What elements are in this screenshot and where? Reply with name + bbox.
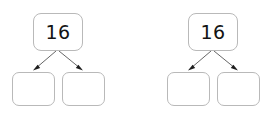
whole-value: 16 — [200, 23, 225, 42]
arrow-to-left-part — [188, 51, 211, 71]
worksheet-canvas: 16 16 — [0, 0, 273, 117]
arrow-to-right-part — [59, 51, 83, 71]
part-box-left[interactable] — [12, 72, 55, 106]
part-box-left[interactable] — [167, 72, 210, 106]
whole-value: 16 — [45, 23, 70, 42]
number-bond-diagram-left: 16 — [12, 0, 122, 117]
arrow-to-right-part — [214, 51, 238, 71]
whole-box[interactable]: 16 — [188, 13, 238, 51]
whole-box[interactable]: 16 — [33, 13, 83, 51]
part-box-right[interactable] — [62, 72, 105, 106]
part-box-right[interactable] — [217, 72, 260, 106]
arrow-to-left-part — [33, 51, 56, 71]
number-bond-diagram-right: 16 — [167, 0, 273, 117]
